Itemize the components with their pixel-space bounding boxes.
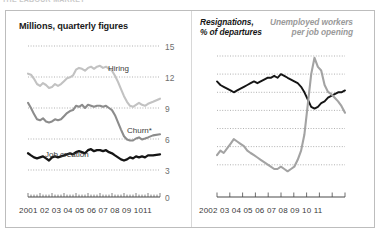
left-ytick-3: 3 <box>165 166 170 176</box>
left-plot-area <box>28 46 160 201</box>
left-ytick-9: 9 <box>165 104 170 114</box>
right-x-axis <box>217 192 347 202</box>
right-x-axis-labels: 2002 03 04 05 06 07 08 09 10 11 <box>199 206 323 215</box>
right-plot-area <box>217 56 345 201</box>
right-gridlines <box>217 56 345 165</box>
series-label-job-creation: Job creation <box>45 150 89 159</box>
left-panel-title: Millions, quarterly figures <box>19 21 128 31</box>
left-chart-svg <box>28 46 160 201</box>
left-ytick-12: 12 <box>165 73 174 83</box>
right-panel-title-unemployed: Unemployed workers per job opening <box>270 18 353 37</box>
cropped-headline-text: THE LABOUR MARKET <box>2 0 382 3</box>
left-ytick-15: 15 <box>165 42 174 52</box>
series-label-churn: Churn* <box>127 126 152 135</box>
left-ytick-0: 0 <box>165 193 170 203</box>
right-chart-svg <box>217 56 345 201</box>
series-hiring-line <box>28 66 160 107</box>
right-panel: Resignations, % of departures Unemployed… <box>192 10 375 228</box>
series-label-hiring: Hiring <box>108 64 129 73</box>
right-panel-title-resignations: Resignations, % of departures <box>200 18 262 37</box>
chart-figure: THE LABOUR MARKET Millions, quarterly fi… <box>0 0 382 240</box>
left-x-axis <box>28 192 162 202</box>
left-ytick-6: 6 <box>165 135 170 145</box>
left-x-axis-labels: 2001 02 03 04 05 06 07 08 09 1011 <box>19 206 152 215</box>
left-panel: Millions, quarterly figures Hiring Churn… <box>5 10 191 228</box>
series-resignations-line <box>217 74 345 109</box>
cropped-headline-strip: THE LABOUR MARKET <box>0 0 382 9</box>
